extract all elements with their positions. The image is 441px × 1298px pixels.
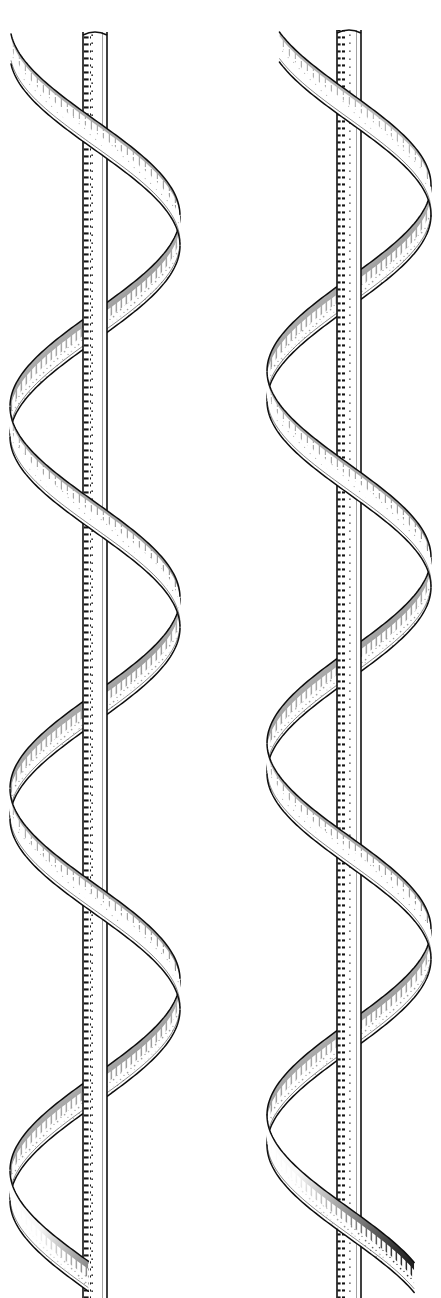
figure-root: Helical ribbon wound on vertical rod Two… <box>0 0 441 1298</box>
left-rod <box>83 32 107 1298</box>
rod-shadow-hatch <box>84 32 92 1298</box>
rod-midtone-dots <box>91 32 97 1298</box>
helix-engraving-illustration <box>0 0 441 1298</box>
rod-shadow-hatch <box>338 30 346 1298</box>
right-rod <box>337 30 361 1298</box>
rod-midtone-dots <box>345 30 351 1298</box>
